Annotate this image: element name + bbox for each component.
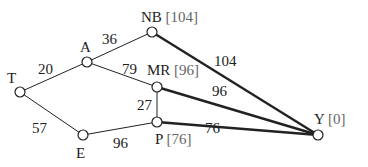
edge-weight-e-p: 96 [113,135,129,151]
edge-nb-y [152,32,318,135]
node-label-y: Y [0] [314,111,346,127]
node-label-nb: NB [104] [141,9,198,25]
heuristic-value: [96] [170,62,199,78]
node-mr [152,82,162,92]
edge-e-p [83,122,157,135]
node-label-mr: MR [96] [147,62,199,78]
node-a [82,57,92,67]
node-label-e: E [76,145,85,161]
node-label-a: A [80,39,91,55]
edges [20,32,318,135]
edge-t-e [20,92,83,135]
node-p [152,117,162,127]
weighted-graph-diagram: 2036795796271049676 TANB [104]MR [96]P [… [0,0,368,167]
node-t [15,87,25,97]
edge-weight-p-y: 76 [205,120,221,136]
edge-weight-a-mr: 79 [122,61,137,77]
node-label-p: P [76] [155,131,192,147]
edge-a-nb [87,32,152,62]
node-nb [147,27,157,37]
heuristic-value: [104] [162,9,198,25]
node-y [313,130,323,140]
node-e [78,130,88,140]
edge-weight-t-a: 20 [38,61,53,77]
edge-weight-nb-y: 104 [214,53,237,69]
heuristic-value: [0] [324,111,345,127]
node-labels: TANB [104]MR [96]P [76]EY [0] [7,9,346,161]
edge-weight-mr-p: 27 [137,97,153,113]
edge-weight-a-nb: 36 [102,31,118,47]
edge-weights: 2036795796271049676 [32,31,237,151]
edge-t-a [20,62,87,92]
heuristic-value: [76] [163,131,192,147]
node-label-t: T [7,70,16,86]
edge-weight-t-e: 57 [32,120,48,136]
edge-weight-mr-y: 96 [212,83,228,99]
